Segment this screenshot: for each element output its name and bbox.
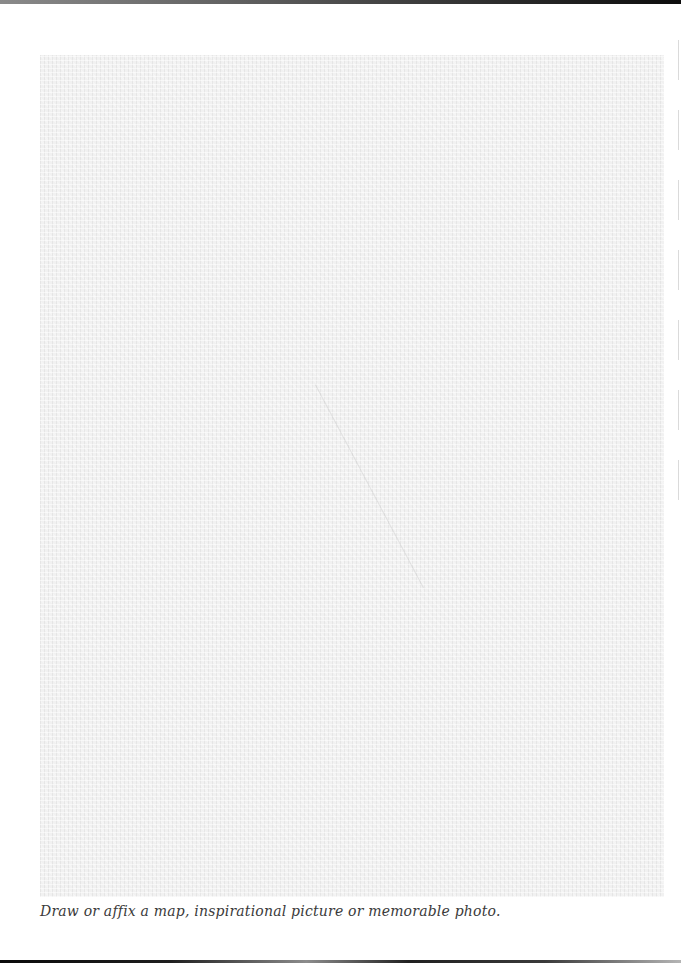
photo-placeholder-area [40,55,664,897]
top-page-edge [0,0,681,4]
caption-text: Draw or affix a map, inspirational pictu… [40,903,501,919]
right-page-edge [678,40,679,520]
